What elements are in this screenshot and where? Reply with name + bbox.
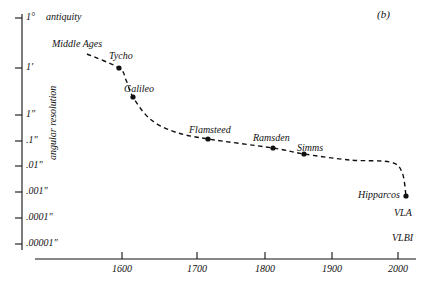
y-tick-label: 1": [26, 109, 35, 119]
resolution-curve: [87, 54, 406, 196]
y-tick-label: .01": [26, 160, 43, 170]
x-tick-label: 2000: [388, 264, 408, 274]
data-point-label: Tycho: [109, 51, 133, 61]
technique-label: VLBI: [392, 233, 413, 243]
x-tick-label: 1900: [322, 264, 342, 274]
x-tick-label: 1600: [112, 264, 132, 274]
data-point-label: Ramsden: [253, 133, 290, 143]
technique-label: VLA: [394, 208, 412, 218]
panel-label: (b): [377, 9, 390, 20]
y-tick-label: 1°: [26, 12, 35, 22]
data-point-marker: [130, 94, 135, 99]
y-axis-ticks: [15, 18, 22, 244]
data-point-marker: [116, 65, 121, 70]
data-point-marker: [270, 145, 275, 150]
y-tick-label: .00001": [26, 238, 58, 248]
x-tick-label: 1800: [255, 264, 275, 274]
x-tick-label: 1700: [187, 264, 207, 274]
y-tick-label: .0001": [26, 212, 53, 222]
era-label: antiquity: [46, 12, 82, 22]
data-point-label: Hipparcos: [358, 190, 400, 200]
data-point-label: Simms: [297, 143, 323, 153]
y-tick-label: 1': [26, 62, 33, 72]
era-label: Middle Ages: [52, 39, 102, 49]
y-tick-label: .001": [26, 186, 48, 196]
data-point-label: Flamsteed: [189, 125, 231, 135]
y-tick-label: .1": [26, 135, 38, 145]
data-point-marker: [403, 193, 408, 198]
figure-panel-b: 1°1'1".1".01".001".0001".00001" 16001700…: [0, 0, 427, 285]
y-axis-title: angular resolution: [48, 86, 58, 160]
x-axis-ticks: [122, 252, 398, 259]
data-point-marker: [205, 136, 210, 141]
data-point-label: Galileo: [124, 84, 154, 94]
